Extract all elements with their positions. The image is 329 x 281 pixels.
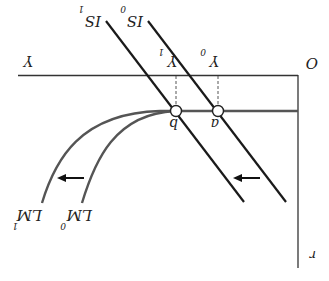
origin-label: O [306, 54, 318, 72]
y1-tick-sub: 1 [158, 47, 164, 57]
point-a-label: a [211, 116, 219, 132]
is0-sub: 0 [120, 4, 126, 14]
y-axis-label: r [309, 248, 316, 263]
is-shift-arrow-icon [233, 174, 260, 182]
is1-sub: 1 [78, 4, 84, 14]
is1-label: IS [85, 12, 102, 30]
islm-diagram: O Y r IS 1 IS 0 Y 1 Y 0 b a LM 1 LM 0 [0, 0, 329, 281]
point-a-marker [213, 106, 224, 117]
y0-tick-sub: 0 [200, 47, 206, 57]
point-b-marker [171, 106, 182, 117]
is0-label: IS [127, 12, 144, 30]
point-b-label: b [169, 116, 178, 132]
lm1-sub: 1 [12, 221, 18, 231]
y0-tick-label: Y [208, 53, 219, 69]
lm1-label: LM [16, 206, 43, 224]
lm0-sub: 0 [60, 221, 66, 231]
x-axis-label: Y [22, 53, 33, 69]
y1-tick-label: Y [166, 53, 177, 69]
lm-shift-arrow-icon [57, 174, 84, 182]
lm0-label: LM [66, 206, 93, 224]
lm0-curve [82, 111, 175, 203]
